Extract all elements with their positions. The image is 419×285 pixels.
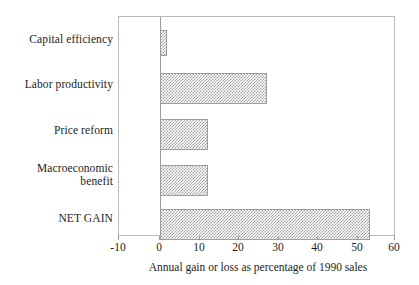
bar-macroeconomic-benefit bbox=[160, 165, 208, 196]
x-tick-mark bbox=[394, 236, 395, 240]
category-label-price-reform: Price reform bbox=[0, 124, 113, 137]
x-tick-label: 10 bbox=[184, 241, 214, 254]
x-tick-label: 40 bbox=[302, 241, 332, 254]
x-tick-label: 0 bbox=[144, 241, 174, 254]
category-label-macroeconomic-benefit: Macroeconomic benefit bbox=[0, 162, 113, 188]
category-label-capital-efficiency: Capital efficiency bbox=[0, 33, 113, 46]
bar-labor-productivity bbox=[160, 73, 267, 104]
x-tick-label: 30 bbox=[263, 241, 293, 254]
x-tick-mark bbox=[159, 236, 160, 240]
x-tick-mark bbox=[278, 236, 279, 240]
x-tick-label: 20 bbox=[223, 241, 253, 254]
bar-chart-figure: Capital efficiency Labor productivity Pr… bbox=[0, 0, 419, 285]
x-tick-mark bbox=[357, 236, 358, 240]
bar-price-reform bbox=[160, 119, 208, 150]
category-label-net-gain: NET GAIN bbox=[0, 212, 113, 225]
x-tick-mark bbox=[199, 236, 200, 240]
category-label-labor-productivity: Labor productivity bbox=[0, 78, 113, 91]
x-tick-mark bbox=[238, 236, 239, 240]
x-axis-title: Annual gain or loss as percentage of 199… bbox=[118, 260, 398, 274]
category-axis: Capital efficiency Labor productivity Pr… bbox=[0, 16, 113, 236]
x-tick-label: 60 bbox=[379, 241, 409, 254]
x-axis: -10 0 10 20 30 40 50 60 bbox=[118, 236, 395, 262]
x-tick-label: 50 bbox=[342, 241, 372, 254]
plot-area bbox=[118, 16, 395, 236]
x-tick-label: -10 bbox=[103, 241, 133, 254]
x-tick-mark bbox=[317, 236, 318, 240]
bar-capital-efficiency bbox=[160, 30, 167, 56]
x-tick-mark bbox=[118, 236, 119, 240]
